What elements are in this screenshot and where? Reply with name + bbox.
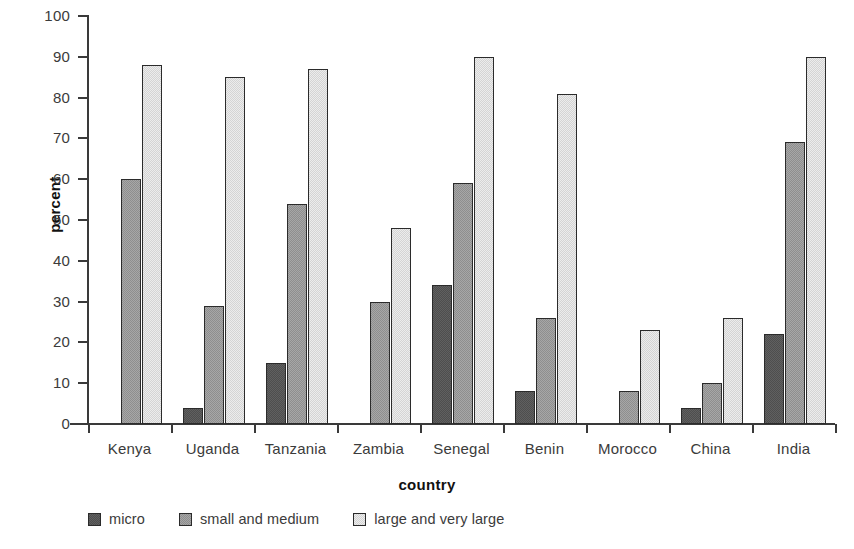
x-axis-category-label: Uganda [171, 440, 254, 457]
bar [287, 204, 307, 424]
x-axis-category-label: India [752, 440, 835, 457]
bar-group [752, 16, 835, 424]
y-axis-tick-label: 100 [32, 8, 70, 23]
y-axis-tick-label: 80 [32, 90, 70, 105]
x-axis-category-label: Benin [503, 440, 586, 457]
bar [536, 318, 556, 424]
y-axis-tick-label: 30 [32, 294, 70, 309]
y-axis-tick-label: 90 [32, 49, 70, 64]
chart-legend: microsmall and mediumlarge and very larg… [88, 511, 538, 527]
bar [453, 183, 473, 424]
bar [121, 179, 141, 424]
y-axis-tick-label: 60 [32, 171, 70, 186]
bar-group [586, 16, 669, 424]
bar-group [171, 16, 254, 424]
x-axis-group-tick [503, 424, 505, 433]
legend-item[interactable]: small and medium [179, 511, 319, 527]
bar [432, 285, 452, 424]
x-axis-category-label: Kenya [88, 440, 171, 457]
y-axis-title: percent [46, 145, 63, 265]
bar [183, 408, 203, 424]
x-axis-category-label: China [669, 440, 752, 457]
bar [702, 383, 722, 424]
x-axis-end-tick [835, 424, 837, 433]
bar [308, 69, 328, 424]
legend-swatch-icon [353, 513, 366, 526]
bar [764, 334, 784, 424]
bar-group [420, 16, 503, 424]
legend-swatch-icon [88, 513, 101, 526]
bar-group [503, 16, 586, 424]
y-axis-tick-label: 10 [32, 375, 70, 390]
bar [723, 318, 743, 424]
y-axis-tick-label: 50 [32, 212, 70, 227]
x-axis-group-tick [337, 424, 339, 433]
x-axis-group-tick [88, 424, 90, 433]
x-axis-category-label: Zambia [337, 440, 420, 457]
x-axis-group-tick [420, 424, 422, 433]
y-axis-tick-label: 70 [32, 130, 70, 145]
bar-chart: percent 1009080706050403020100 KenyaUgan… [0, 0, 854, 549]
x-axis-group-tick [254, 424, 256, 433]
x-axis-group-tick [171, 424, 173, 433]
bar [142, 65, 162, 424]
bar-group [88, 16, 171, 424]
bar [266, 363, 286, 424]
bar-group [337, 16, 420, 424]
bar [370, 302, 390, 424]
legend-label: micro [109, 511, 145, 527]
legend-label: small and medium [200, 511, 319, 527]
bar [785, 142, 805, 424]
bar [806, 57, 826, 424]
bar-group [669, 16, 752, 424]
bar [557, 94, 577, 424]
bar [225, 77, 245, 424]
legend-item[interactable]: micro [88, 511, 145, 527]
x-axis-group-tick [586, 424, 588, 433]
bar [619, 391, 639, 424]
legend-swatch-icon [179, 513, 192, 526]
y-axis-tick-label: 0 [32, 416, 70, 431]
bar [515, 391, 535, 424]
legend-label: large and very large [374, 511, 504, 527]
bar [640, 330, 660, 424]
x-axis-title: country [0, 476, 854, 493]
legend-item[interactable]: large and very large [353, 511, 504, 527]
bar-group [254, 16, 337, 424]
y-axis-tick-label: 20 [32, 334, 70, 349]
x-axis-category-label: Morocco [586, 440, 669, 457]
bar [681, 408, 701, 424]
y-axis-tick-label: 40 [32, 253, 70, 268]
x-axis-category-label: Tanzania [254, 440, 337, 457]
x-axis-group-tick [669, 424, 671, 433]
x-axis-category-label: Senegal [420, 440, 503, 457]
bar [474, 57, 494, 424]
x-axis-group-tick [752, 424, 754, 433]
bar [204, 306, 224, 424]
plot-area [88, 16, 835, 424]
bar [391, 228, 411, 424]
